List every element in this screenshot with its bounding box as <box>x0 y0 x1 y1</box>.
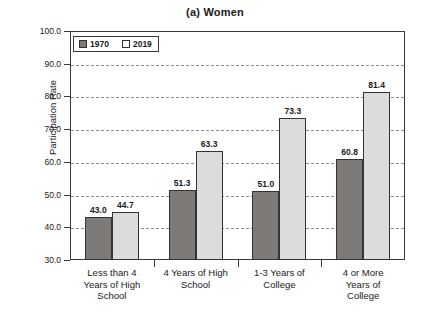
chart-legend: 1970 2019 <box>73 36 159 52</box>
y-tick-label: 40.0 <box>19 222 61 232</box>
x-category-label-line: School <box>154 279 238 291</box>
x-category-label-1: 4 Years of HighSchool <box>154 267 238 290</box>
legend-label-1970: 1970 <box>90 39 109 49</box>
bar-value-label: 81.4 <box>355 80 398 90</box>
bars-layer: 43.051.351.060.844.763.373.381.4 <box>70 31 405 260</box>
x-category-label-line: College <box>321 290 405 302</box>
y-tick-label: 50.0 <box>19 190 61 200</box>
x-category-label-line: 4 or More <box>321 267 405 279</box>
bar-1970-0 <box>85 217 112 260</box>
x-category-label-line: Years of <box>321 279 405 291</box>
legend-swatch-icon-2019 <box>122 40 130 48</box>
legend-entry-1970: 1970 <box>79 39 109 49</box>
bar-1970-2 <box>252 191 279 260</box>
bar-2019-1 <box>196 151 223 260</box>
bar-2019-0 <box>112 212 139 260</box>
y-tick-label: 90.0 <box>19 59 61 69</box>
x-category-label-line: 4 Years of High <box>154 267 238 279</box>
bar-value-label: 73.3 <box>271 106 314 116</box>
y-tick-label: 60.0 <box>19 157 61 167</box>
y-tick-mark <box>64 260 70 261</box>
x-category-label-line: 1-3 Years of <box>238 267 322 279</box>
legend-swatch-icon-1970 <box>79 40 87 48</box>
x-category-label-line: School <box>70 290 154 302</box>
x-category-label-line: Years of High <box>70 279 154 291</box>
x-category-label-0: Less than 4Years of HighSchool <box>70 267 154 302</box>
chart-title: (a) Women <box>0 6 430 18</box>
x-axis-separator <box>321 260 322 267</box>
y-tick-label: 70.0 <box>19 124 61 134</box>
bar-2019-3 <box>363 92 390 260</box>
bar-1970-3 <box>336 159 363 260</box>
bar-1970-1 <box>169 190 196 260</box>
y-tick-label: 80.0 <box>19 91 61 101</box>
y-tick-label: 30.0 <box>19 255 61 265</box>
bar-value-label: 51.0 <box>244 179 287 189</box>
x-axis-separator <box>238 260 239 267</box>
chart-figure: (a) Women Participation Rate 100.090.080… <box>0 0 430 319</box>
bar-value-label: 60.8 <box>328 147 371 157</box>
legend-label-2019: 2019 <box>133 39 152 49</box>
x-category-label-line: College <box>238 279 322 291</box>
x-category-label-2: 1-3 Years ofCollege <box>238 267 322 290</box>
bar-value-label: 51.3 <box>161 178 204 188</box>
x-category-label-line: Less than 4 <box>70 267 154 279</box>
bar-value-label: 63.3 <box>188 139 231 149</box>
y-tick-label: 100.0 <box>19 26 61 36</box>
bar-value-label: 44.7 <box>104 200 147 210</box>
x-axis-separator <box>154 260 155 267</box>
legend-entry-2019: 2019 <box>122 39 152 49</box>
x-category-label-3: 4 or MoreYears ofCollege <box>321 267 405 302</box>
